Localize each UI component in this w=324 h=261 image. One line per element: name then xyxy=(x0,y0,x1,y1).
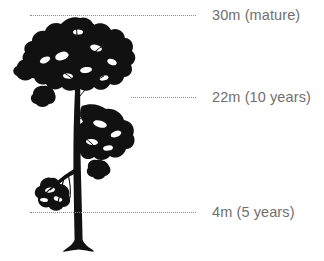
guide-line-mature xyxy=(30,15,196,16)
guide-label-ten-years: 22m (10 years) xyxy=(212,89,311,105)
tree-clump-left-upper xyxy=(13,59,42,80)
tree-silhouette-shapes xyxy=(13,17,135,251)
tree-silhouette xyxy=(0,0,324,261)
tree-clump-mid-right xyxy=(87,160,111,180)
guide-label-five-years: 4m (5 years) xyxy=(212,204,295,220)
tree-growth-diagram: 30m (mature) 22m (10 years) 4m (5 years) xyxy=(0,0,324,261)
tree-canopy-mid-right xyxy=(76,104,134,160)
tree-clump-lower-left xyxy=(35,177,70,210)
guide-label-mature: 30m (mature) xyxy=(212,7,300,23)
tree-clump-left-lower xyxy=(31,86,56,107)
guide-line-ten-years xyxy=(131,97,196,98)
tree-canopy-top xyxy=(23,17,136,90)
guide-line-five-years xyxy=(30,212,196,213)
